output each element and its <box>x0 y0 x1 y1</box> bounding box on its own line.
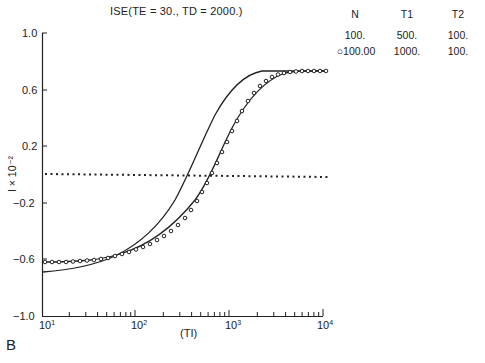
svg-text:104: 104 <box>317 319 333 331</box>
svg-text:−1.0: −1.0 <box>13 310 35 322</box>
series-t1-1000-line <box>43 71 327 262</box>
y-axis-label: I × 10⁻² <box>6 156 18 192</box>
x-ticks <box>69 309 323 316</box>
series-t1-1000-markers <box>43 69 328 264</box>
x-axis-label: (TI) <box>180 327 197 339</box>
svg-text:102: 102 <box>131 319 147 331</box>
plot-area: 1.0 0.6 0.2 −0.2 −0.6 −1.0 101 102 103 1… <box>0 0 485 363</box>
svg-text:−0.6: −0.6 <box>13 253 35 265</box>
figure-label: B <box>6 336 16 353</box>
svg-text:101: 101 <box>39 319 55 331</box>
svg-text:−0.2: −0.2 <box>13 197 35 209</box>
svg-text:0.6: 0.6 <box>22 84 37 96</box>
svg-text:1.0: 1.0 <box>22 27 37 39</box>
series-t1-500-line <box>43 71 327 272</box>
svg-text:0.2: 0.2 <box>22 140 37 152</box>
svg-text:103: 103 <box>225 319 241 331</box>
